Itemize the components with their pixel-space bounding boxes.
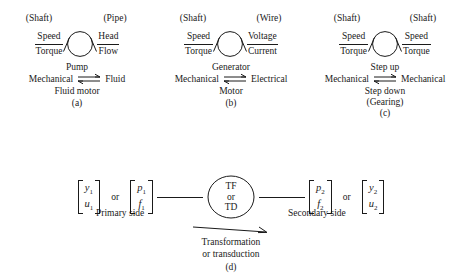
panel-a-forward-device: Pump <box>66 62 88 72</box>
element-line-td: TD <box>225 202 238 213</box>
bracket-right <box>148 180 153 214</box>
primary-input-variable: u1 <box>85 197 94 213</box>
panel-c-port-left: (Shaft) <box>316 13 378 23</box>
panel-d-caption-block: Transformation or transduction (d) <box>0 224 462 272</box>
panel-a-right-flow: Flow <box>98 46 120 57</box>
direction-arrow-icon <box>192 224 270 235</box>
panel-c-forward-device: Step up <box>371 62 400 72</box>
panel-c-right-variables: Speed Torque <box>402 31 431 57</box>
panel-a-tag: (a) <box>72 98 83 108</box>
bidirectional-arrow-icon <box>76 73 102 85</box>
panel-a-port-right: (Pipe) <box>84 13 146 23</box>
element-line-tf: TF <box>225 181 236 192</box>
panel-b-tag: (b) <box>225 98 236 108</box>
panel-a-left-variables: Speed Torque <box>35 31 64 57</box>
panel-a: (Shaft) (Pipe) Speed Torque Head <box>0 0 154 140</box>
transducer-element-label: TF or TD <box>204 174 258 220</box>
panel-b-port-labels: (Shaft) (Wire) <box>154 13 308 23</box>
transducer-element-ellipse: TF or TD <box>204 174 258 220</box>
primary-or-label: or <box>111 192 119 202</box>
fraction-rule <box>339 44 368 45</box>
panel-d-main-row: y1 u1 or p1 f1 TF or TD <box>0 174 462 220</box>
panel-c-left-variables: Speed Torque <box>339 31 368 57</box>
panel-d: y1 u1 or p1 f1 TF or TD <box>0 160 462 277</box>
fraction-rule <box>97 44 119 45</box>
connection-line-right <box>259 197 305 198</box>
bidirectional-arrow-icon <box>372 73 398 85</box>
panel-b-right-variables: Voltage Current <box>247 31 278 57</box>
panel-b-port-right: (Wire) <box>238 13 300 23</box>
panel-d-caption-line-1: Transformation <box>202 237 261 249</box>
secondary-matrix-yu: y2 u2 <box>358 180 389 214</box>
panel-c-domain-right: Mechanical <box>401 74 445 84</box>
panel-c-tag: (c) <box>380 108 391 118</box>
panel-b-reverse-device: Motor <box>219 86 243 96</box>
panel-d-caption: Transformation or transduction <box>202 237 261 261</box>
panel-b-transducer-circle-icon <box>213 27 247 61</box>
transducer-panels-row: (Shaft) (Pipe) Speed Torque Head <box>0 0 462 140</box>
primary-matrix-yu-cells: y1 u1 <box>83 180 96 214</box>
panel-d-caption-line-2: or transduction <box>202 249 261 261</box>
panel-d-tag: (d) <box>225 262 236 272</box>
panel-a-reverse-device: Fluid motor <box>54 86 99 96</box>
secondary-matrix-yu-cells: y2 u2 <box>367 180 380 214</box>
panel-a-domain-row: Mechanical Fluid <box>29 73 125 85</box>
panel-c-port-labels: (Shaft) (Shaft) <box>308 13 462 23</box>
panel-b-left-effort: Speed <box>186 31 211 42</box>
panel-a-domain-right: Fluid <box>105 74 125 84</box>
secondary-effort-variable: p2 <box>316 181 325 197</box>
panel-c-left-flow: Torque <box>339 46 368 57</box>
primary-effort-variable: p1 <box>137 181 146 197</box>
panel-c-reverse-device: Step down <box>365 86 405 96</box>
panel-b-core: Speed Torque Voltage Current <box>154 27 308 61</box>
primary-output-variable: y1 <box>85 181 93 197</box>
fraction-rule <box>184 44 213 45</box>
panel-b: (Shaft) (Wire) Speed Torque Voltage <box>154 0 308 140</box>
fraction-rule <box>402 44 431 45</box>
panel-b-port-left: (Shaft) <box>162 13 224 23</box>
panel-a-transducer-circle-icon <box>63 27 97 61</box>
secondary-or-label: or <box>343 192 351 202</box>
panel-a-domain-left: Mechanical <box>29 74 73 84</box>
panel-c-core: Speed Torque Speed Torque <box>308 27 462 61</box>
secondary-side-label: Secondary side <box>288 208 346 218</box>
panel-a-port-labels: (Shaft) (Pipe) <box>0 13 154 23</box>
panel-b-domain-right: Electrical <box>251 74 287 84</box>
bracket-right <box>379 180 384 214</box>
fraction-rule <box>35 44 64 45</box>
panel-b-left-flow: Torque <box>184 46 213 57</box>
panel-b-right-effort: Voltage <box>247 31 278 42</box>
panel-c-extra-note: (Gearing) <box>367 97 404 107</box>
secondary-output-variable: y2 <box>369 181 377 197</box>
panel-b-right-flow: Current <box>247 46 278 57</box>
panel-b-domain-left: Mechanical <box>175 74 219 84</box>
secondary-input-variable: u2 <box>369 197 378 213</box>
panel-a-left-flow: Torque <box>35 46 64 57</box>
panel-c: (Shaft) (Shaft) Speed Torque Speed <box>308 0 462 140</box>
panel-c-left-effort: Speed <box>341 31 366 42</box>
panel-a-right-variables: Head Flow <box>97 31 119 57</box>
bidirectional-arrow-icon <box>222 73 248 85</box>
panel-c-port-right: (Shaft) <box>392 13 454 23</box>
fraction-rule <box>247 44 278 45</box>
connection-line-left <box>157 197 203 198</box>
element-line-or: or <box>227 192 235 203</box>
panel-b-forward-device: Generator <box>212 62 250 72</box>
panel-c-domain-row: Mechanical Mechanical <box>325 73 446 85</box>
panel-b-left-variables: Speed Torque <box>184 31 213 57</box>
panel-a-right-effort: Head <box>97 31 119 42</box>
panel-a-core: Speed Torque Head Flow <box>0 27 154 61</box>
panel-b-domain-row: Mechanical Electrical <box>175 73 288 85</box>
panel-a-port-left: (Shaft) <box>8 13 70 23</box>
panel-c-domain-left: Mechanical <box>325 74 369 84</box>
panel-c-transducer-circle-icon <box>368 27 402 61</box>
primary-side-label: Primary side <box>96 208 144 218</box>
panel-c-right-effort: Speed <box>404 31 429 42</box>
panel-a-left-effort: Speed <box>36 31 61 42</box>
panel-c-right-flow: Torque <box>402 46 431 57</box>
